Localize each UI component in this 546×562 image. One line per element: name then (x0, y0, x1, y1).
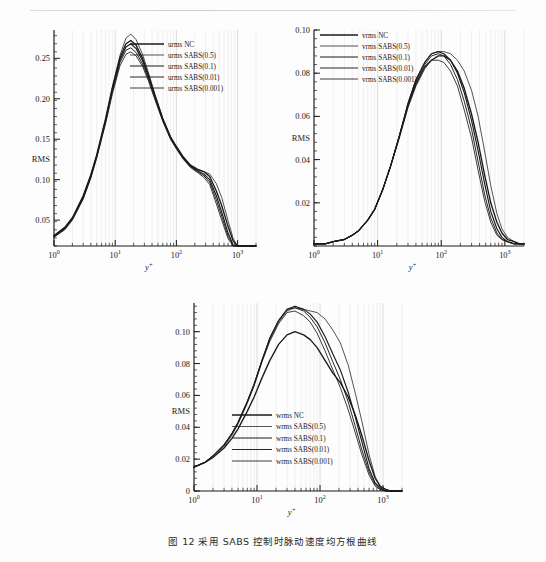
urms-x-axis: 100101102103 (48, 240, 256, 260)
svg-text:102: 102 (171, 249, 182, 260)
vrms-plot: 0.020.040.060.080.10RMS100101102103y+vrm… (270, 18, 532, 280)
vrms-gridlines (314, 30, 524, 246)
svg-text:103: 103 (232, 249, 243, 260)
chart-wrms: 00.020.040.060.080.10RMS100101102103y+wr… (150, 293, 412, 525)
wrms-y-axis: 00.020.040.060.080.10 (175, 306, 200, 496)
svg-text:0.25: 0.25 (35, 54, 50, 63)
vrms-legend: vrms NCvrms SABS(0.5)vrms SABS(0.1)vrms … (320, 32, 418, 84)
svg-text:0.02: 0.02 (295, 199, 310, 208)
urms-axes (54, 30, 256, 246)
svg-text:0.10: 0.10 (35, 176, 50, 185)
wrms-xlabel: y+ (287, 507, 296, 517)
urms-ylabel: RMS (32, 154, 50, 164)
series-line (54, 41, 256, 246)
legend-label: urms SABS(0.01) (168, 74, 220, 82)
legend-label: vrms SABS(0.01) (362, 65, 414, 73)
svg-text:101: 101 (110, 249, 121, 260)
figure-page: 0.050.100.150.200.25RMS100101102103y+urm… (0, 0, 546, 562)
urms-gridlines (54, 30, 256, 246)
legend-label: wrms SABS(0.5) (276, 423, 326, 431)
wrms-plot: 00.020.040.060.080.10RMS100101102103y+wr… (150, 293, 412, 525)
wrms-x-axis: 100101102103 (188, 485, 402, 505)
svg-text:103: 103 (499, 249, 510, 260)
svg-text:102: 102 (436, 249, 447, 260)
svg-text:0.08: 0.08 (175, 360, 190, 369)
svg-text:101: 101 (372, 249, 383, 260)
wrms-ylabel: RMS (172, 406, 190, 416)
svg-text:0.06: 0.06 (175, 391, 190, 400)
chart-urms: 0.050.100.150.200.25RMS100101102103y+urm… (14, 18, 264, 280)
legend-label: wrms NC (276, 412, 304, 420)
vrms-xlabel: y+ (408, 262, 417, 272)
legend-label: urms SABS(0.5) (168, 52, 217, 60)
svg-text:102: 102 (314, 494, 325, 505)
legend-label: wrms SABS(0.001) (276, 458, 333, 466)
svg-text:103: 103 (377, 494, 388, 505)
svg-text:0.10: 0.10 (175, 328, 190, 337)
svg-text:101: 101 (251, 494, 262, 505)
series-line (54, 44, 256, 246)
legend-label: wrms SABS(0.01) (276, 446, 330, 454)
chart-vrms: 0.020.040.060.080.10RMS100101102103y+vrm… (270, 18, 532, 280)
svg-text:0.20: 0.20 (35, 95, 50, 104)
legend-label: vrms SABS(0.1) (362, 54, 411, 62)
svg-text:100: 100 (188, 494, 199, 505)
svg-text:0.10: 0.10 (295, 26, 310, 35)
svg-text:100: 100 (48, 249, 59, 260)
svg-text:0.06: 0.06 (295, 112, 310, 121)
svg-text:0.15: 0.15 (35, 135, 50, 144)
vrms-series (314, 52, 524, 244)
urms-y-axis: 0.050.100.150.200.25 (35, 36, 60, 246)
vrms-axes (314, 30, 524, 246)
legend-label: wrms SABS(0.1) (276, 435, 326, 443)
svg-text:0.04: 0.04 (175, 423, 190, 432)
vrms-ylabel: RMS (292, 133, 310, 143)
svg-text:0.04: 0.04 (295, 156, 310, 165)
page-top-rule (30, 10, 516, 11)
legend-label: urms NC (168, 41, 194, 49)
legend-label: urms SABS(0.001) (168, 85, 224, 93)
legend-label: vrms SABS(0.001) (362, 76, 418, 84)
urms-plot: 0.050.100.150.200.25RMS100101102103y+urm… (14, 18, 264, 280)
figure-caption: 图 12 采用 SABS 控制时脉动速度均方根曲线 (0, 534, 546, 548)
legend-label: vrms NC (362, 32, 388, 40)
svg-text:0.02: 0.02 (175, 455, 190, 464)
vrms-x-axis: 100101102103 (308, 240, 524, 260)
svg-text:0.08: 0.08 (295, 69, 310, 78)
urms-xlabel: y+ (144, 262, 153, 272)
svg-text:0: 0 (186, 487, 190, 496)
series-line (54, 48, 256, 246)
legend-label: urms SABS(0.1) (168, 63, 217, 71)
legend-label: vrms SABS(0.5) (362, 43, 411, 51)
svg-text:100: 100 (308, 249, 319, 260)
svg-text:0.05: 0.05 (35, 216, 50, 225)
